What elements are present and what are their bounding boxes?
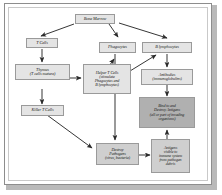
node-killer-t-cells-label: Killer T Cells — [32, 108, 54, 112]
diagram-page: Bone Marrow T Cells Phagocytes B lymphoc… — [0, 0, 222, 195]
node-phagocytes-label: Phagocytes — [108, 45, 127, 49]
node-antibodies-line2: (immunoglobulins) — [152, 77, 181, 81]
node-destroy-pathogens[interactable]: Destroy Pathogens (virus, bacteria) — [96, 143, 139, 165]
node-antigens-visible[interactable]: Antigens visible to immune system from p… — [151, 139, 190, 173]
node-phagocytes[interactable]: Phagocytes — [99, 42, 136, 53]
node-bone-marrow[interactable]: Bone Marrow — [75, 14, 115, 24]
node-antigens-visible-line5: debris — [166, 162, 175, 166]
node-killer-t-cells[interactable]: Killer T Cells — [21, 105, 64, 116]
node-helper-t-cells[interactable]: Helper T Cells (stimulate Phagocytes and… — [83, 64, 131, 94]
node-t-cells[interactable]: T Cells — [26, 38, 58, 48]
node-helper-t-cells-line4: B lymphocytes) — [95, 83, 119, 87]
node-thymus-line2: (T cells mature) — [30, 72, 56, 76]
node-bone-marrow-label: Bone Marrow — [84, 17, 107, 21]
node-destroy-pathogens-line3: (virus, bacteria) — [105, 156, 130, 160]
node-bind-destroy[interactable]: Bind to and Destroy Antigens (all or par… — [139, 97, 195, 128]
node-antibodies[interactable]: Antibodies (immunoglobulins) — [141, 69, 193, 85]
node-b-lymphocytes[interactable]: B lymphocytes — [142, 42, 192, 53]
node-b-lymphocytes-label: B lymphocytes — [155, 45, 179, 49]
node-bind-destroy-line4: organisms) — [159, 117, 176, 121]
node-thymus[interactable]: Thymus (T cells mature) — [15, 64, 70, 80]
node-t-cells-label: T Cells — [36, 41, 48, 45]
